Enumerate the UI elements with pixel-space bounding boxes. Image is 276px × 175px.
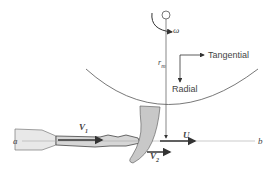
v1-sub: 1 [85, 128, 88, 134]
a-label: a [13, 136, 18, 146]
tangential-label: Tangential [208, 50, 249, 60]
rm-label: rm [158, 58, 165, 69]
pivot-icon [162, 11, 170, 19]
omega-label: ω [173, 25, 179, 35]
radial-label: Radial [172, 84, 198, 94]
nozzle [15, 129, 56, 150]
u-label: U [183, 130, 190, 140]
v2-sub: 2 [156, 157, 159, 163]
v1-label: V1 [79, 122, 88, 134]
diagram-canvas: ω rm Tangential Radial V1 V2 U a b [0, 0, 276, 175]
v2-label: V2 [150, 151, 159, 163]
diagram-svg [0, 0, 276, 175]
rm-sub: m [161, 63, 165, 69]
b-label: b [258, 136, 263, 146]
